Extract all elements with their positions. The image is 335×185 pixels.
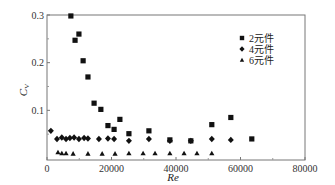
scatter-chart: 0200004000060000800000.10.20.3 2元件4元件6元件… <box>0 0 335 185</box>
axis-ticks: 0200004000060000800000.10.20.3 <box>32 10 318 175</box>
square-marker <box>117 117 122 122</box>
diamond-marker <box>111 136 117 142</box>
triangle-marker <box>59 151 64 156</box>
square-marker <box>72 38 77 43</box>
diamond-marker <box>54 136 60 142</box>
diamond-marker <box>228 137 234 143</box>
y-tick-label: 0.1 <box>32 105 45 116</box>
diamond-marker <box>76 136 82 142</box>
square-marker <box>98 107 103 112</box>
square-marker <box>126 131 131 136</box>
data-points <box>48 13 255 155</box>
triangle-marker <box>100 151 105 156</box>
square-marker <box>228 115 233 120</box>
diamond-marker <box>239 46 244 52</box>
triangle-marker <box>55 150 60 155</box>
y-axis-label: CV <box>17 84 31 96</box>
square-marker <box>85 74 90 79</box>
diamond-marker <box>209 136 215 142</box>
triangle-marker <box>85 151 90 156</box>
triangle-marker <box>112 151 117 156</box>
legend-label: 6元件 <box>249 55 274 66</box>
square-marker <box>105 123 110 128</box>
square-marker <box>249 136 254 141</box>
y-tick-label: 0.2 <box>32 57 45 68</box>
y-tick-label: 0.3 <box>32 10 45 21</box>
svg-text:CV: CV <box>17 84 31 96</box>
triangle-marker <box>167 151 172 156</box>
x-axis-label: Re <box>166 171 179 183</box>
square-marker <box>76 31 81 36</box>
square-marker <box>68 13 73 18</box>
triangle-marker <box>141 151 146 156</box>
diamond-marker <box>85 135 91 141</box>
triangle-marker <box>181 151 186 156</box>
triangle-marker <box>126 151 131 156</box>
square-marker <box>91 101 96 106</box>
triangle-marker <box>63 151 68 156</box>
triangle-marker <box>71 151 76 156</box>
x-tick-label: 80000 <box>293 163 318 174</box>
legend-label: 2元件 <box>249 33 274 44</box>
legend-label: 4元件 <box>249 44 274 55</box>
square-marker <box>240 36 244 40</box>
square-marker <box>81 58 86 63</box>
triangle-marker <box>240 58 244 62</box>
legend: 2元件4元件6元件 <box>239 33 274 66</box>
diamond-marker <box>71 134 77 140</box>
triangle-marker <box>194 151 199 156</box>
triangle-marker <box>209 151 214 156</box>
square-marker <box>209 122 214 127</box>
square-marker <box>146 128 151 133</box>
diamond-marker <box>105 135 111 141</box>
triangle-marker <box>152 151 157 156</box>
x-tick-label: 20000 <box>99 163 124 174</box>
diamond-marker <box>126 138 132 144</box>
x-tick-label: 60000 <box>228 163 253 174</box>
x-tick-label: 0 <box>45 163 50 174</box>
diamond-marker <box>96 136 102 142</box>
diamond-marker <box>146 136 152 142</box>
diamond-marker <box>48 128 54 134</box>
square-marker <box>111 127 116 132</box>
